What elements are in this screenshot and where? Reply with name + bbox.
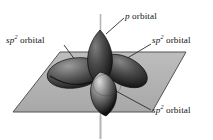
orbital-diagram: p orbital sp2 orbital sp2 orbital sp2 or… bbox=[0, 0, 213, 140]
label-sp2-left-text: orbital bbox=[18, 35, 45, 45]
label-p-orbital-text: orbital bbox=[130, 11, 157, 21]
label-sp2-orbital-left: sp2 orbital bbox=[6, 36, 45, 45]
label-sp2-orbital-bottom: sp2 orbital bbox=[152, 106, 191, 115]
orbital-diagram-canvas bbox=[0, 0, 213, 140]
label-sp2-orbital-right: sp2 orbital bbox=[152, 36, 191, 45]
label-p-orbital: p orbital bbox=[125, 12, 157, 21]
label-sp2-bottom-text: orbital bbox=[164, 105, 191, 115]
leader-line-p bbox=[106, 18, 124, 34]
label-sp2-right-text: orbital bbox=[164, 35, 191, 45]
